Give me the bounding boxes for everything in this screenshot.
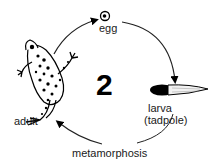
arrow-to-adult — [58, 122, 102, 144]
egg-icon — [101, 12, 110, 21]
adult-label: adult — [14, 116, 38, 127]
metamorphosis-label: metamorphosis — [72, 148, 147, 159]
stage-number: 2 — [96, 70, 113, 100]
arrow-adult-to-egg — [54, 20, 96, 54]
arrow-egg-to-larva — [122, 22, 175, 81]
larva-label: larva — [148, 103, 172, 114]
tadpole-icon — [150, 85, 208, 96]
tadpole-label: (tadpole) — [144, 115, 187, 126]
egg-label: egg — [99, 23, 117, 34]
frog-icon — [17, 40, 78, 125]
